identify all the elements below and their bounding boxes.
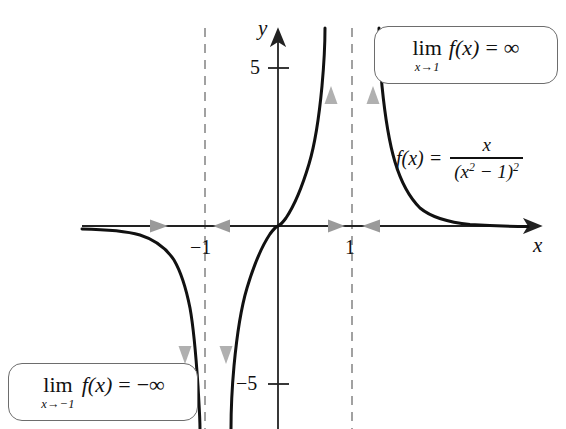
limit-equals-left: =: [118, 374, 130, 396]
limit-function-right: f(x): [449, 37, 480, 59]
limit-function-left: f(x): [82, 374, 113, 396]
limit-expression-left: lim x→−1 f(x) = −∞: [41, 374, 165, 411]
arrow-y-up-right-of-pos1: [367, 86, 380, 130]
y-tick-label-5: 5: [250, 56, 260, 79]
lim-word-left: lim: [43, 374, 72, 396]
arrow-x-toward-pos1-from-right: [362, 220, 412, 233]
arrow-y-down-right-of-neg1: [220, 318, 233, 364]
denominator-middle: − 1): [475, 161, 513, 182]
limit-equals-right: =: [485, 37, 497, 59]
function-formula: f(x) = x (x2 − 1)2: [396, 134, 562, 183]
formula-lhs: f(x) =: [396, 147, 442, 170]
formula-denominator: (x2 − 1)2: [450, 159, 523, 183]
limit-result-right: ∞: [504, 37, 520, 59]
callout-limit-right: lim x→1 f(x) = ∞: [374, 26, 558, 84]
limit-operator-right: lim x→1: [413, 37, 442, 74]
callout-limit-left: lim x→−1 f(x) = −∞: [8, 363, 198, 421]
limit-expression-right: lim x→1 f(x) = ∞: [413, 37, 520, 74]
denominator-outer-exponent: 2: [513, 161, 519, 174]
x-tick-label-1: 1: [345, 236, 355, 259]
figure-canvas: y x 5 −5 −1 1 f(x) = x (x2 − 1)2 lim x→1…: [0, 0, 566, 429]
limit-operator-left: lim x→−1: [41, 374, 75, 411]
x-tick-label-neg1: −1: [190, 236, 211, 259]
formula-fraction: x (x2 − 1)2: [450, 134, 523, 183]
formula-numerator: x: [474, 134, 498, 157]
lim-word-right: lim: [413, 37, 442, 59]
y-tick-label-neg5: −5: [236, 372, 257, 395]
x-axis-label: x: [533, 233, 542, 258]
arrow-y-down-left-of-neg1: [179, 318, 192, 364]
lim-subscript-left: x→−1: [41, 398, 75, 411]
arrow-x-toward-neg1-from-right: [213, 220, 258, 233]
lim-subscript-right: x→1: [415, 61, 440, 74]
limit-result-left: −∞: [137, 374, 165, 396]
arrow-y-up-left-of-pos1: [325, 86, 338, 130]
y-axis-label: y: [258, 16, 267, 41]
arrow-x-toward-pos1-from-left: [296, 220, 345, 233]
denominator-base: (x: [454, 161, 469, 182]
